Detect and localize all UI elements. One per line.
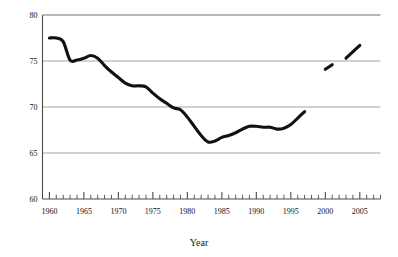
y-tick-label: 75 <box>30 57 38 66</box>
x-tick-label: 1990 <box>248 207 264 216</box>
x-tick-label: 1975 <box>145 207 161 216</box>
x-tick-label: 1960 <box>41 207 57 216</box>
y-tick-labels: 6065707580 <box>30 11 38 204</box>
x-tick-label: 2000 <box>317 207 333 216</box>
x-tick-labels: 1960196519701975198019851990199520002005 <box>41 207 367 216</box>
chart-container: Percent of Caseloads Comprised by Childr… <box>0 0 398 257</box>
data-line-3 <box>346 45 360 58</box>
x-tick-label: 1965 <box>76 207 92 216</box>
y-tick-label: 70 <box>30 103 38 112</box>
data-line-2 <box>325 65 332 70</box>
x-tick-label: 1980 <box>179 207 195 216</box>
x-tick-label: 2005 <box>352 207 368 216</box>
y-tick-label: 60 <box>30 195 38 204</box>
gridlines <box>43 15 381 153</box>
data-line-1 <box>49 38 304 143</box>
data-series-lines <box>49 38 359 143</box>
y-tick-label: 80 <box>30 11 38 20</box>
line-chart-plot: 6065707580 19601965197019751980198519901… <box>0 0 398 257</box>
y-tick-label: 65 <box>30 149 38 158</box>
x-tick-label: 1995 <box>283 207 299 216</box>
x-tick-label: 1985 <box>214 207 230 216</box>
x-minor-ticks <box>43 192 381 199</box>
x-tick-label: 1970 <box>110 207 126 216</box>
